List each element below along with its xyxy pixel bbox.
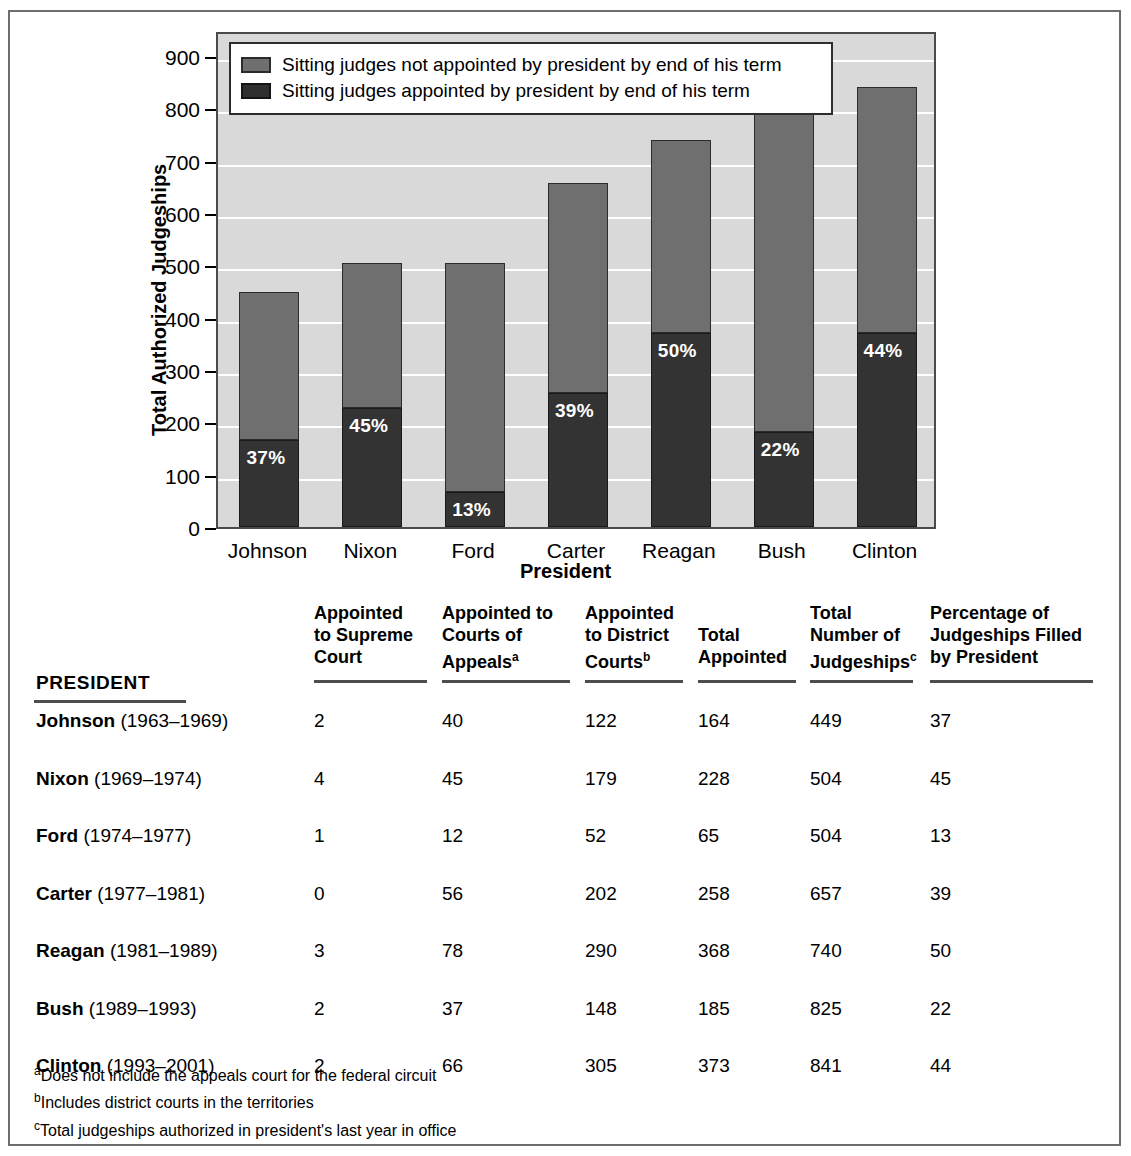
footnote-marker: a: [512, 650, 519, 664]
stacked-bar-chart: Total Authorized Judgeships 900800700600…: [0, 0, 1131, 600]
table-cell: 65: [698, 825, 719, 847]
bar-reagan: 50%: [651, 140, 711, 527]
bar-percentage-label: 13%: [452, 499, 491, 521]
table-cell: 52: [585, 825, 606, 847]
bar-clinton: 44%: [857, 87, 917, 527]
y-tick-mark: [205, 57, 216, 59]
y-tick-label: 500: [154, 255, 200, 279]
footnote: bIncludes district courts in the territo…: [34, 1087, 456, 1114]
legend-label-appointed: Sitting judges appointed by president by…: [282, 80, 750, 102]
footnote-marker: b: [643, 650, 650, 664]
column-header-line: to District: [585, 624, 695, 646]
president-term-years: (1969–1974): [89, 768, 202, 789]
column-header-line: Courts of: [442, 624, 582, 646]
column-header-line: Appointed: [314, 602, 439, 624]
header-rule: [698, 680, 796, 683]
table-row: Ford (1974–1977)112526550413: [0, 825, 1131, 882]
footnote-marker: c: [910, 650, 917, 664]
legend-label-not-appointed: Sitting judges not appointed by presiden…: [282, 54, 782, 76]
y-tick-label: 800: [154, 98, 200, 122]
bar-percentage-label: 22%: [761, 439, 800, 461]
y-tick-label: 400: [154, 308, 200, 332]
column-header-line: Appointed: [698, 646, 808, 668]
figure-page: Total Authorized Judgeships 900800700600…: [0, 0, 1131, 1156]
table-cell: 368: [698, 940, 730, 962]
table-cell: 373: [698, 1055, 730, 1077]
table-column-header: TotalAppointed: [698, 624, 808, 668]
table-cell: 841: [810, 1055, 842, 1077]
y-tick-mark: [205, 319, 216, 321]
bar-carter: 39%: [548, 183, 608, 527]
president-term-years: (1977–1981): [92, 883, 205, 904]
table-cell: 50: [930, 940, 951, 962]
table-cell: 228: [698, 768, 730, 790]
table-cell: 3: [314, 940, 325, 962]
footnote: aDoes not include the appeals court for …: [34, 1060, 456, 1087]
table-cell: 202: [585, 883, 617, 905]
president-term-years: (1963–1969): [115, 710, 228, 731]
president-name: Johnson: [36, 710, 115, 731]
bar-segment-appointed: 45%: [342, 408, 402, 527]
bar-bush: 22%: [754, 95, 814, 527]
column-header-line: Courtsb: [585, 646, 695, 673]
column-header-line: Number of: [810, 624, 925, 646]
y-tick-mark: [205, 423, 216, 425]
president-name: Bush: [36, 998, 84, 1019]
president-term-years: (1989–1993): [84, 998, 197, 1019]
y-tick-mark: [205, 214, 216, 216]
table-cell: 148: [585, 998, 617, 1020]
column-header-line: Total: [698, 624, 808, 646]
bar-segment-not-appointed: [239, 292, 299, 440]
table-cell: 13: [930, 825, 951, 847]
table-cell: 258: [698, 883, 730, 905]
table-cell: 185: [698, 998, 730, 1020]
column-header-line: Judgeships Filled: [930, 624, 1105, 646]
table-header-row: PRESIDENT Appointedto SupremeCourtAppoin…: [0, 600, 1131, 698]
table-cell: 179: [585, 768, 617, 790]
bar-segment-appointed: 44%: [857, 333, 917, 527]
table-cell: 657: [810, 883, 842, 905]
table-cell: 37: [930, 710, 951, 732]
table-cell: 504: [810, 825, 842, 847]
y-tick-label: 600: [154, 203, 200, 227]
row-label-president: Bush (1989–1993): [36, 998, 197, 1020]
table-cell: 4: [314, 768, 325, 790]
y-tick-label: 100: [154, 465, 200, 489]
bar-johnson: 37%: [239, 292, 299, 527]
table-row: Bush (1989–1993)23714818582522: [0, 998, 1131, 1055]
y-tick-mark: [205, 476, 216, 478]
row-label-president: Nixon (1969–1974): [36, 768, 202, 790]
table-cell: 740: [810, 940, 842, 962]
column-header-line: Percentage of: [930, 602, 1105, 624]
y-tick-mark: [205, 266, 216, 268]
row-label-president: Reagan (1981–1989): [36, 940, 218, 962]
bar-percentage-label: 45%: [349, 415, 388, 437]
table-cell: 78: [442, 940, 463, 962]
row-label-president: Ford (1974–1977): [36, 825, 191, 847]
table-cell: 164: [698, 710, 730, 732]
president-name: Reagan: [36, 940, 105, 961]
column-header-line: Appointed: [585, 602, 695, 624]
legend-item-not-appointed: Sitting judges not appointed by presiden…: [241, 52, 821, 78]
bar-segment-appointed: 39%: [548, 393, 608, 527]
x-axis-title: President: [0, 560, 1131, 583]
bar-percentage-label: 50%: [658, 340, 697, 362]
y-tick-label: 200: [154, 412, 200, 436]
y-tick-label: 700: [154, 151, 200, 175]
y-tick-mark: [205, 162, 216, 164]
table-cell: 0: [314, 883, 325, 905]
table-row: Nixon (1969–1974)44517922850445: [0, 768, 1131, 825]
table-column-header: TotalNumber ofJudgeshipsc: [810, 602, 925, 673]
table-cell: 45: [442, 768, 463, 790]
table-cell: 305: [585, 1055, 617, 1077]
table-column-header: Appointedto SupremeCourt: [314, 602, 439, 668]
bar-segment-appointed: 13%: [445, 492, 505, 527]
bar-ford: 13%: [445, 263, 505, 527]
table-cell: 449: [810, 710, 842, 732]
bar-segment-appointed: 22%: [754, 432, 814, 527]
bar-segment-appointed: 50%: [651, 333, 711, 527]
table-footnotes: aDoes not include the appeals court for …: [34, 1060, 456, 1142]
table-cell: 56: [442, 883, 463, 905]
footnote-marker: a: [34, 1064, 41, 1078]
president-term-years: (1974–1977): [78, 825, 191, 846]
